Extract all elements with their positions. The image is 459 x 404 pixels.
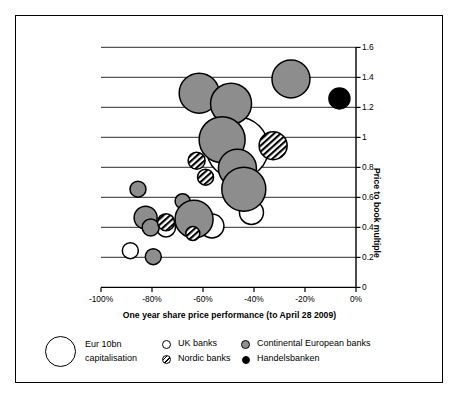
chart-figure: 00.20.40.60.811.21.41.6 -100%-80%-60%-40… — [0, 0, 459, 404]
chart-legend: Eur 10bn capitalisation UK banks Nordic … — [45, 330, 425, 380]
y-tick-label: 1 — [362, 132, 392, 142]
x-tick-label: -80% — [132, 294, 172, 304]
legend-label-uk-banks[interactable]: UK banks — [178, 338, 217, 349]
bubble-nordic-banks[interactable] — [259, 132, 287, 160]
y-tick-label: 0 — [362, 282, 392, 292]
y-tick-label: 1.6 — [362, 42, 392, 52]
legend-label-continental-european-banks[interactable]: Continental European banks — [257, 338, 371, 349]
bubble-nordic-banks[interactable] — [158, 214, 175, 231]
bubble-continental-european-banks[interactable] — [145, 249, 161, 265]
y-tick-label: 1.4 — [362, 72, 392, 82]
legend-size-reference-line2: capitalisation — [85, 353, 137, 364]
legend-marker-continental-european-banks[interactable] — [241, 340, 250, 349]
x-tick-label: -40% — [234, 294, 274, 304]
x-tick-label: -100% — [81, 294, 121, 304]
y-tick-label: 1.2 — [362, 102, 392, 112]
x-tick-label: -20% — [285, 294, 325, 304]
legend-size-reference-line1: Eur 10bn — [85, 339, 122, 350]
bubble-nordic-banks[interactable] — [198, 169, 214, 185]
x-tick-label: -60% — [183, 294, 223, 304]
bubble-continental-european-banks[interactable] — [222, 167, 266, 211]
legend-marker-uk-banks[interactable] — [162, 340, 171, 349]
legend-size-reference-bubble — [45, 336, 76, 367]
bubble-nordic-banks[interactable] — [188, 152, 205, 169]
bubble-continental-european-banks[interactable] — [142, 219, 159, 236]
legend-marker-nordic-banks[interactable] — [162, 355, 171, 364]
y-axis-title: Price to book multiple — [372, 168, 382, 258]
bubble-uk-banks[interactable] — [122, 243, 138, 259]
x-axis-title: One year share price performance (to Apr… — [0, 310, 459, 320]
bubble-continental-european-banks[interactable] — [130, 181, 146, 197]
bubble-continental-european-banks[interactable] — [272, 60, 310, 98]
x-tick-label: 0% — [336, 294, 376, 304]
bubble-handelsbanken[interactable] — [329, 88, 350, 109]
legend-label-handelsbanken[interactable]: Handelsbanken — [257, 353, 320, 364]
bubbles-group — [122, 60, 350, 265]
bubble-nordic-banks[interactable] — [186, 226, 200, 240]
legend-marker-handelsbanken[interactable] — [242, 356, 250, 364]
legend-label-nordic-banks[interactable]: Nordic banks — [178, 353, 231, 364]
